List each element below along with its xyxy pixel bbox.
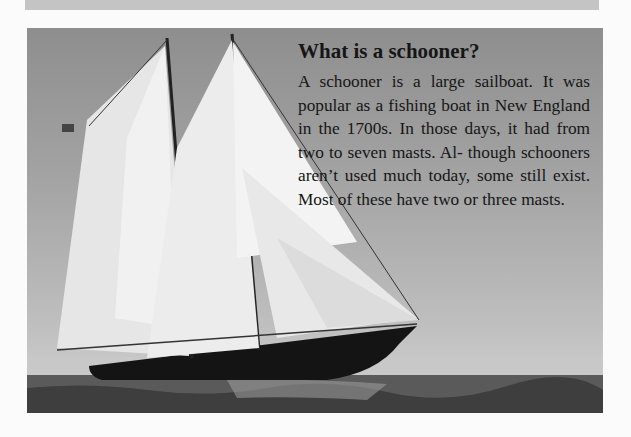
article-body: A schooner is a large sailboat. It was p… [298,70,590,211]
top-gray-bar [25,0,599,10]
article-caption: What is a schooner? A schooner is a larg… [298,38,590,211]
article-title: What is a schooner? [298,38,590,64]
